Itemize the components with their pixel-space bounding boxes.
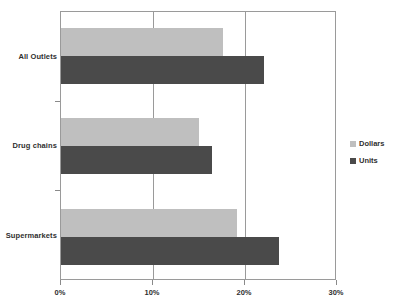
category-band-all-outlets [61, 12, 335, 102]
legend-label-units: Units [359, 156, 378, 165]
bar-supermarkets-dollars[interactable] [61, 209, 237, 237]
legend-swatch-units-icon [350, 158, 356, 164]
bar-drug-chains-dollars[interactable] [61, 118, 199, 146]
category-band-drug-chains [61, 102, 335, 191]
x-axis-label-30: 30% [316, 288, 356, 297]
legend-swatch-dollars-icon [350, 141, 356, 147]
legend-item-units[interactable]: Units [350, 156, 384, 165]
x-axis-tick-30 [336, 280, 337, 285]
y-axis-label-all-outlets: All Outlets [0, 52, 57, 61]
x-axis-tick-10 [152, 280, 153, 285]
bar-all-outlets-units[interactable] [61, 56, 264, 84]
legend-label-dollars: Dollars [359, 139, 384, 148]
x-axis-label-0: 0% [40, 288, 80, 297]
y-axis-label-supermarkets: Supermarkets [0, 231, 57, 240]
x-axis-tick-20 [244, 280, 245, 285]
x-axis-label-20: 20% [224, 288, 264, 297]
bar-all-outlets-dollars[interactable] [61, 28, 223, 56]
y-axis-tick-1 [55, 101, 60, 102]
y-axis-tick-2 [55, 190, 60, 191]
legend: Dollars Units [350, 139, 384, 173]
legend-item-dollars[interactable]: Dollars [350, 139, 384, 148]
category-band-supermarkets [61, 191, 335, 281]
plot-area [60, 11, 336, 280]
x-axis-tick-0 [60, 280, 61, 285]
y-axis-label-drug-chains: Drug chains [0, 141, 57, 150]
bar-supermarkets-units[interactable] [61, 237, 279, 265]
bar-drug-chains-units[interactable] [61, 146, 212, 174]
x-axis-label-10: 10% [132, 288, 172, 297]
bar-chart: All Outlets Drug chains Supermarkets 0% … [0, 0, 393, 307]
